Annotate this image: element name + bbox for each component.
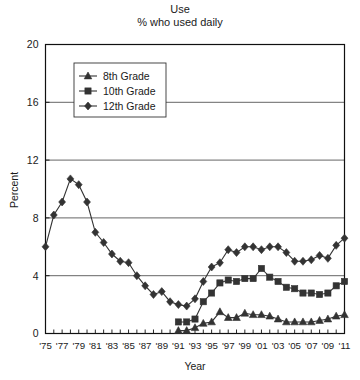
- y-tick-label: 8: [33, 212, 39, 224]
- x-tick-label: '89: [155, 340, 168, 351]
- legend-label: 10th Grade: [103, 85, 156, 97]
- data-point-marker: [308, 290, 314, 296]
- x-tick-group: '75'77'79'81'83'85'87'89'91'93'95'97'99'…: [39, 330, 350, 351]
- series-line: [46, 179, 345, 306]
- data-point-marker: [300, 257, 307, 265]
- y-tick-label: 20: [27, 38, 39, 50]
- x-tick-label: '09: [322, 340, 335, 351]
- data-point-marker: [300, 290, 306, 296]
- x-tick-label: '87: [139, 340, 152, 351]
- legend-marker: [85, 88, 91, 94]
- data-point-marker: [209, 290, 215, 296]
- data-point-marker: [250, 275, 256, 281]
- data-point-marker: [267, 274, 273, 280]
- data-point-marker: [184, 319, 190, 325]
- data-point-marker: [242, 275, 248, 281]
- data-point-marker: [200, 299, 206, 305]
- data-point-marker: [42, 243, 49, 251]
- data-point-marker: [208, 263, 215, 271]
- data-point-marker: [299, 318, 307, 325]
- data-point-marker: [341, 278, 347, 284]
- data-point-marker: [241, 243, 248, 251]
- x-tick-label: '75: [39, 340, 52, 351]
- x-tick-label: '97: [222, 340, 235, 351]
- x-tick-label: '11: [339, 340, 351, 351]
- chart-legend: 8th Grade10th Grade12th Grade: [74, 63, 166, 117]
- y-tick-label: 4: [33, 270, 39, 282]
- data-point-marker: [316, 291, 322, 297]
- x-tick-label: '77: [56, 340, 69, 351]
- y-tick-label: 0: [33, 327, 39, 339]
- data-point-marker: [225, 277, 231, 283]
- data-point-marker: [175, 327, 183, 334]
- x-tick-label: '99: [239, 340, 252, 351]
- data-point-marker: [200, 277, 207, 285]
- data-point-marker: [192, 316, 198, 322]
- data-point-marker: [308, 256, 315, 264]
- data-point-marker: [291, 318, 299, 325]
- data-point-marker: [283, 284, 289, 290]
- data-point-marker: [258, 265, 264, 271]
- x-tick-label: '01: [255, 340, 268, 351]
- line-chart-svg: 048121620 '75'77'79'81'83'85'87'89'91'93…: [0, 0, 360, 380]
- x-tick-label: '95: [205, 340, 218, 351]
- data-point-marker: [341, 311, 349, 318]
- x-tick-label: '85: [122, 340, 135, 351]
- legend-label: 8th Grade: [103, 70, 150, 82]
- legend-label: 12th Grade: [103, 100, 156, 112]
- data-point-marker: [241, 309, 249, 316]
- series-group: [42, 175, 348, 334]
- data-point-marker: [84, 198, 91, 206]
- data-point-marker: [275, 278, 281, 284]
- data-point-marker: [216, 308, 224, 315]
- x-tick-label: '83: [106, 340, 119, 351]
- data-point-marker: [275, 243, 282, 251]
- x-tick-label: '91: [172, 340, 185, 351]
- data-point-marker: [75, 181, 82, 189]
- x-axis-label: Year: [184, 360, 206, 372]
- data-point-marker: [316, 251, 323, 259]
- data-point-marker: [325, 290, 331, 296]
- x-tick-label: '79: [72, 340, 85, 351]
- data-point-marker: [175, 301, 182, 309]
- data-point-marker: [67, 175, 74, 183]
- data-point-marker: [175, 319, 181, 325]
- x-tick-label: '05: [288, 340, 301, 351]
- gridlines-group: [46, 102, 345, 275]
- data-point-marker: [250, 243, 257, 251]
- data-point-marker: [217, 280, 223, 286]
- data-point-marker: [233, 278, 239, 284]
- x-tick-label: '81: [89, 340, 102, 351]
- y-tick-label: 12: [27, 154, 39, 166]
- y-axis-label: Percent: [8, 172, 20, 208]
- data-point-marker: [258, 246, 265, 254]
- x-tick-label: '03: [272, 340, 285, 351]
- data-point-marker: [258, 311, 266, 318]
- x-tick-label: '93: [189, 340, 202, 351]
- x-tick-label: '07: [305, 340, 318, 351]
- data-point-marker: [292, 286, 298, 292]
- y-tick-label: 16: [27, 96, 39, 108]
- data-point-marker: [191, 324, 199, 331]
- data-point-marker: [333, 283, 339, 289]
- data-point-marker: [233, 314, 241, 321]
- chart-figure: Use % who used daily 048121620 '75'77'79…: [0, 0, 360, 380]
- data-point-marker: [233, 249, 240, 257]
- data-point-marker: [224, 314, 232, 321]
- data-point-marker: [266, 243, 273, 251]
